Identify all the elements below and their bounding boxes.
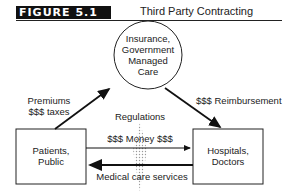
insurer-line1: Insurance,: [114, 33, 182, 44]
insurer-label: Insurance, Government Managed Care: [114, 33, 182, 77]
insurer-line4: Care: [114, 66, 182, 77]
insurer-line2: Government: [114, 44, 182, 55]
premiums-label: Premiums $$$ taxes: [18, 95, 80, 117]
premiums-line2: $$$ taxes: [18, 106, 80, 117]
providers-line2: Doctors: [193, 156, 263, 167]
money-label: $$$ Money $$$: [95, 133, 185, 144]
patients-line2: Public: [16, 156, 86, 167]
patients-label: Patients, Public: [16, 145, 86, 167]
premiums-line1: Premiums: [18, 95, 80, 106]
providers-line1: Hospitals,: [193, 145, 263, 156]
reimbursement-label: $$$ Reimbursement: [196, 95, 291, 106]
patients-line1: Patients,: [16, 145, 86, 156]
regulations-label: Regulations: [110, 111, 170, 122]
insurer-line3: Managed: [114, 55, 182, 66]
reimbursement-arrow: [165, 88, 220, 127]
providers-label: Hospitals, Doctors: [193, 145, 263, 167]
services-label: Medical care services: [90, 171, 194, 182]
